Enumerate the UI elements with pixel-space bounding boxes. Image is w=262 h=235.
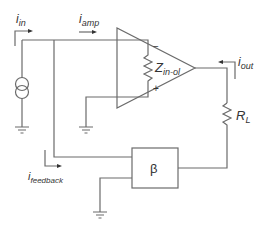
beta-ground-wire bbox=[100, 178, 132, 212]
z-in-ol-resistor-icon bbox=[86, 50, 152, 127]
r-l-resistor-icon bbox=[178, 103, 231, 168]
i-out-label: iout bbox=[238, 55, 254, 71]
i-amp-label: iamp bbox=[79, 12, 99, 28]
z-in-ol-label: Zin-ol bbox=[154, 60, 181, 77]
noninverting-input-sign: + bbox=[153, 83, 159, 94]
current-source-icon bbox=[16, 78, 29, 99]
output-wire bbox=[195, 68, 227, 103]
ground-icon bbox=[79, 127, 93, 133]
ground-icon bbox=[93, 212, 107, 218]
r-l-label: RL bbox=[236, 108, 250, 125]
circuit-diagram: iin iamp iout ifeedback Zin-ol RL β − + bbox=[0, 0, 262, 235]
inverting-input-sign: − bbox=[153, 41, 159, 52]
beta-label: β bbox=[150, 161, 157, 176]
i-amp-arrow-icon bbox=[79, 30, 97, 34]
ground-icon bbox=[15, 127, 29, 133]
i-feedback-label: ifeedback bbox=[28, 170, 64, 185]
i-in-label: iin bbox=[16, 12, 26, 28]
feedback-wire bbox=[54, 40, 132, 157]
i-in-arrow-icon bbox=[15, 29, 33, 46]
